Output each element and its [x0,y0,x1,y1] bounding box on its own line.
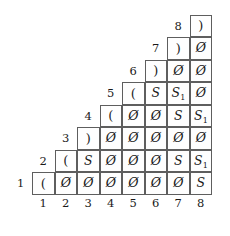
table-cell-r1-c8: S [190,172,213,195]
column-label-4: 4 [100,196,123,210]
table-cell-r2-c2: ( [55,150,78,173]
table-cell-r2-c8: S1 [190,150,213,173]
table-cell-r2-c3: S [77,150,100,173]
table-cell-r7-c7: ) [167,37,190,60]
table-cell-r6-c6: ) [145,60,168,83]
table-cell-r5-c7: S1 [167,82,190,105]
column-label-1: 1 [32,196,55,210]
column-label-7: 7 [167,196,190,210]
table-cell-r5-c5: ( [122,82,145,105]
table-cell-r7-c8: Ø [190,37,213,60]
column-label-3: 3 [77,196,100,210]
table-cell-r1-c7: Ø [167,172,190,195]
table-cell-r1-c3: Ø [77,172,100,195]
table-cell-r4-c7: S [167,105,190,128]
table-cell-r4-c8: S1 [190,105,213,128]
table-cell-r1-c1: ( [32,172,55,195]
table-cell-r3-c3: ) [77,127,100,150]
table-cell-r1-c4: Ø [100,172,123,195]
column-label-6: 6 [145,196,168,210]
table-cell-r6-c8: Ø [190,60,213,83]
table-cell-r3-c4: Ø [100,127,123,150]
table-cell-r2-c4: Ø [100,150,123,173]
table-cell-r3-c8: Ø [190,127,213,150]
table-cell-r5-c8: Ø [190,82,213,105]
table-cell-r3-c7: Ø [167,127,190,150]
table-grid: (ØØØØØØS(SØØØSS1)ØØØØØ(ØØSS1(SS1Ø)ØØ)Ø)1… [0,0,230,236]
table-cell-r2-c6: Ø [145,150,168,173]
row-label-8: 8 [167,15,190,38]
column-label-2: 2 [55,196,78,210]
table-cell-r6-c7: Ø [167,60,190,83]
row-label-4: 4 [77,105,100,128]
column-label-8: 8 [190,196,213,210]
table-cell-r3-c6: Ø [145,127,168,150]
table-cell-r8-c8: ) [190,15,213,38]
row-label-7: 7 [145,37,168,60]
cyk-parse-table-figure: (ØØØØØØS(SØØØSS1)ØØØØØ(ØØSS1(SS1Ø)ØØ)Ø)1… [0,0,230,236]
table-cell-r5-c6: S [145,82,168,105]
table-cell-r2-c7: S [167,150,190,173]
table-cell-r1-c6: Ø [145,172,168,195]
row-label-6: 6 [122,60,145,83]
table-cell-r4-c4: ( [100,105,123,128]
table-cell-r4-c5: Ø [122,105,145,128]
table-cell-r1-c5: Ø [122,172,145,195]
row-label-2: 2 [32,150,55,173]
table-cell-r2-c5: Ø [122,150,145,173]
row-label-3: 3 [55,127,78,150]
row-label-5: 5 [100,82,123,105]
table-cell-r3-c5: Ø [122,127,145,150]
table-cell-r4-c6: Ø [145,105,168,128]
column-label-5: 5 [122,196,145,210]
table-cell-r1-c2: Ø [55,172,78,195]
row-label-1: 1 [10,172,33,195]
